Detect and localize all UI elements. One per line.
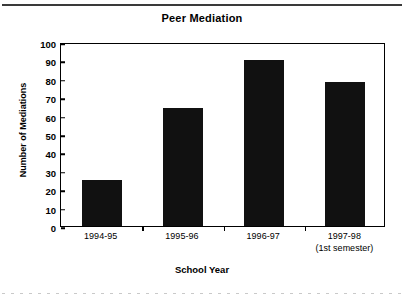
bar <box>163 108 203 226</box>
y-axis-title: Number of Mediations <box>18 55 28 205</box>
x-tick-label: 1996-97 <box>247 230 280 242</box>
bar <box>244 60 284 226</box>
x-axis-title: School Year <box>0 264 404 275</box>
y-tick-label: 10 <box>45 204 61 215</box>
scan-line-top <box>2 4 402 6</box>
y-tick-label: 60 <box>45 112 61 123</box>
y-tick-label: 50 <box>45 131 61 142</box>
y-tick-label: 70 <box>45 94 61 105</box>
x-tick-sublabel: (1st semester) <box>316 242 374 254</box>
y-tick-mark <box>61 227 65 229</box>
bar <box>325 82 365 226</box>
y-tick-label: 90 <box>45 57 61 68</box>
scan-line-bottom <box>2 293 402 294</box>
bar-series <box>61 44 384 226</box>
chart-title: Peer Mediation <box>0 12 404 24</box>
plot-area: 1009080706050403020100 <box>60 43 385 227</box>
x-tick-label: 1997-98(1st semester) <box>316 230 374 254</box>
y-tick-label: 20 <box>45 186 61 197</box>
y-tick-label: 30 <box>45 167 61 178</box>
x-tick-label: 1995-96 <box>165 230 198 242</box>
y-tick-label: 100 <box>40 39 61 50</box>
x-tick-label: 1994-95 <box>84 230 117 242</box>
y-tick-label: 40 <box>45 149 61 160</box>
y-tick-label: 80 <box>45 75 61 86</box>
bar <box>82 180 122 226</box>
